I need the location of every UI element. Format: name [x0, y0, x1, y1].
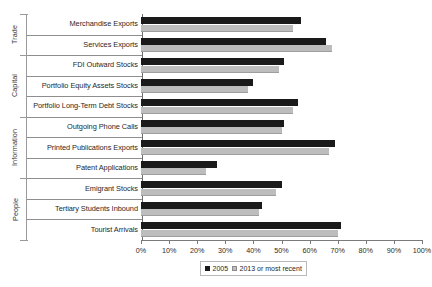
group-axis: TradeCapitalInformationPeople: [4, 14, 26, 240]
category-divider: [27, 219, 142, 220]
legend-swatch-2005: [205, 266, 210, 271]
bar-series-2013: [141, 107, 293, 114]
legend-label-2005: 2005: [213, 265, 229, 272]
bar-series-2013: [141, 189, 276, 196]
category-label: Patent Applications: [27, 163, 138, 172]
legend-item-2013: 2013 or most recent: [232, 265, 302, 272]
group-divider-tick: [20, 117, 28, 118]
category-label: Portfolio Equity Assets Stocks: [27, 81, 138, 90]
category-label: Outgoing Phone Calls: [27, 122, 138, 131]
x-axis-tick: [338, 240, 339, 244]
group-label-information: Information: [4, 117, 26, 179]
x-axis-tick-label: 100%: [405, 246, 432, 255]
category-label: Printed Publications Exports: [27, 143, 138, 152]
bar-series-2013: [141, 25, 293, 32]
bar-series-2013: [141, 86, 248, 93]
x-axis-tick: [422, 240, 423, 244]
category-label: Tourist Arrivals: [27, 225, 138, 234]
bar-series-2005: [141, 140, 335, 147]
group-label-trade: Trade: [4, 14, 26, 55]
bar-series-2013: [141, 148, 329, 155]
category-divider: [27, 117, 142, 118]
group-label-capital: Capital: [4, 55, 26, 117]
group-label-text: People: [11, 198, 20, 221]
horizontal-bar-chart: TradeCapitalInformationPeople Merchandis…: [0, 0, 432, 287]
bar-series-2013: [141, 127, 282, 134]
x-axis-tick: [366, 240, 367, 244]
group-divider-tick: [20, 14, 28, 15]
bar-series-2005: [141, 17, 301, 24]
category-label: FDI Outward Stocks: [27, 60, 138, 69]
bar-series-2013: [141, 209, 259, 216]
group-label-text: Trade: [10, 25, 19, 44]
x-axis-tick: [282, 240, 283, 244]
bar-series-2005: [141, 79, 253, 86]
chart-legend: 2005 2013 or most recent: [200, 261, 307, 276]
bar-series-2013: [141, 168, 206, 175]
category-label: Tertiary Students Inbound: [27, 204, 138, 213]
bar-series-2005: [141, 181, 282, 188]
bar-series-2005: [141, 161, 217, 168]
group-label-text: Information: [11, 129, 20, 166]
category-label: Portfolio Long-Term Debt Stocks: [27, 101, 138, 110]
x-axis-tick: [197, 240, 198, 244]
category-divider: [27, 178, 142, 179]
group-label-people: People: [4, 178, 26, 240]
x-axis-tick: [394, 240, 395, 244]
category-label: Emigrant Stocks: [27, 184, 138, 193]
category-divider: [27, 76, 142, 77]
bar-series-2013: [141, 66, 279, 73]
bar-series-2005: [141, 99, 298, 106]
legend-item-2005: 2005: [205, 265, 228, 272]
category-divider: [27, 199, 142, 200]
bar-series-2005: [141, 120, 284, 127]
group-divider-tick: [20, 240, 28, 241]
x-axis-tick: [141, 240, 142, 244]
category-label: Services Exports: [27, 40, 138, 49]
bar-series-2005: [141, 38, 326, 45]
bar-series-2013: [141, 230, 338, 237]
category-divider: [27, 137, 142, 138]
bar-series-2013: [141, 45, 332, 52]
legend-swatch-2013: [232, 266, 237, 271]
legend-label-2013: 2013 or most recent: [240, 265, 302, 272]
category-divider: [27, 55, 142, 56]
category-divider: [27, 158, 142, 159]
plot-area: [141, 14, 422, 240]
bar-series-2005: [141, 222, 341, 229]
bar-series-2005: [141, 58, 284, 65]
x-axis-tick: [169, 240, 170, 244]
group-label-text: Capital: [11, 74, 20, 97]
category-label: Merchandise Exports: [27, 19, 138, 28]
category-divider: [27, 96, 142, 97]
group-divider-tick: [20, 178, 28, 179]
x-axis-tick: [225, 240, 226, 244]
category-label-column: Merchandise ExportsServices ExportsFDI O…: [26, 14, 143, 240]
x-axis-tick: [253, 240, 254, 244]
x-axis-tick: [310, 240, 311, 244]
category-divider: [27, 35, 142, 36]
bar-series-2005: [141, 202, 262, 209]
group-divider-tick: [20, 55, 28, 56]
